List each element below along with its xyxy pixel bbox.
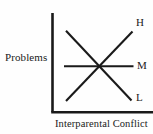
x-axis-label: Interparental Conflict xyxy=(55,119,148,130)
series-label-moderate: M xyxy=(137,60,147,71)
chart-plot-area xyxy=(0,0,153,134)
chart-figure: Problems Interparental Conflict H M L xyxy=(0,0,153,134)
y-axis-label: Problems xyxy=(5,52,47,63)
series-label-high: H xyxy=(136,17,144,28)
series-label-low: L xyxy=(136,92,143,103)
